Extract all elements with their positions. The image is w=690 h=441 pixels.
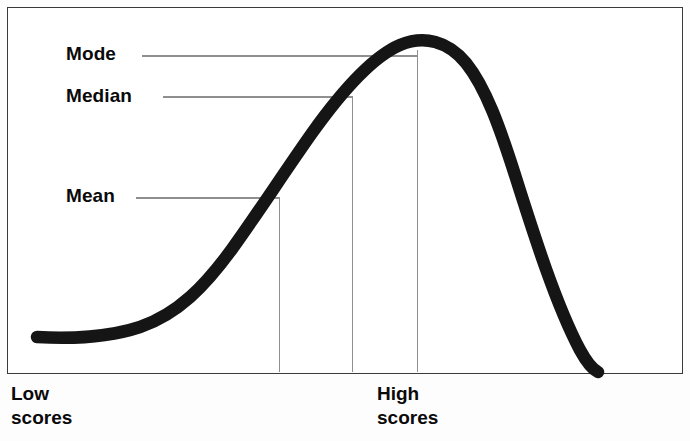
axis-label-high-scores: High scores [377,382,438,430]
callout-label-mean: Mean [66,186,115,205]
callout-label-mode: Mode [66,44,116,63]
callout-label-median: Median [66,86,132,105]
axis-label-high-line2: scores [377,406,438,430]
axis-label-low-line2: scores [11,406,72,430]
axis-label-low-scores: Low scores [11,382,72,430]
skewed-distribution-figure: Mode Median Mean Low scores High scores [0,0,690,441]
axis-label-high-line1: High [377,383,419,404]
axis-label-low-line1: Low [11,383,49,404]
